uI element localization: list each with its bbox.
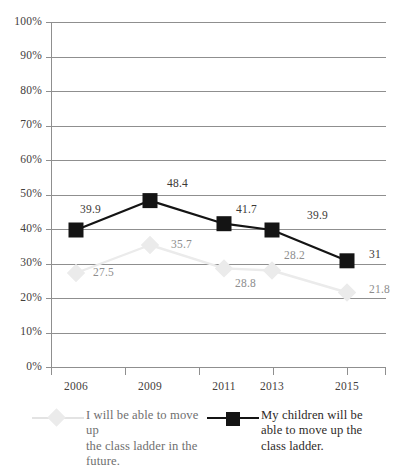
- value-label-faded-2006: 27.5: [93, 266, 114, 278]
- xtick-label-2015: 2015: [327, 380, 367, 392]
- ytick-label-40: 40%: [0, 222, 42, 234]
- ytick-label-20: 20%: [0, 291, 42, 303]
- ytick-label-70: 70%: [0, 118, 42, 130]
- value-label-faded-2013: 28.2: [284, 249, 305, 261]
- series-primary: [69, 193, 355, 268]
- square-marker-icon: [205, 410, 261, 426]
- value-label-primary-2006: 39.9: [80, 203, 101, 215]
- value-label-primary-2011: 41.7: [236, 203, 257, 215]
- legend-entry-faded[interactable]: I will be able to move up the class ladd…: [30, 408, 205, 465]
- line-chart: 100% 90% 80% 70% 60% 50% 40% 30% 20% 10%…: [0, 0, 405, 465]
- legend-faded-line-2: the class ladder in the: [86, 439, 197, 453]
- y-axis-ticks: [46, 23, 51, 368]
- xtick-label-2013: 2013: [252, 380, 292, 392]
- ytick-label-50: 50%: [0, 187, 42, 199]
- series-primary-markers: [69, 193, 355, 268]
- legend-faded-line-3: future.: [86, 454, 120, 465]
- legend-faded-line-1: I will be able to move up: [86, 408, 198, 437]
- value-label-faded-2011: 28.8: [235, 277, 256, 289]
- xtick-label-2009: 2009: [130, 380, 170, 392]
- ytick-label-30: 30%: [0, 256, 42, 268]
- ytick-label-10: 10%: [0, 325, 42, 337]
- legend-label-primary: My children will be able to move up the …: [261, 408, 363, 454]
- value-label-faded-2015: 21.8: [369, 283, 390, 295]
- xtick-label-2006: 2006: [56, 380, 96, 392]
- ytick-label-60: 60%: [0, 153, 42, 165]
- gridlines: [51, 23, 386, 368]
- ytick-label-80: 80%: [0, 84, 42, 96]
- legend-entry-primary[interactable]: My children will be able to move up the …: [205, 408, 390, 454]
- legend-primary-line-3: class ladder.: [261, 439, 324, 453]
- value-label-primary-2009: 48.4: [167, 177, 188, 189]
- ytick-label-90: 90%: [0, 49, 42, 61]
- legend-primary-line-2: able to move up the: [261, 423, 362, 437]
- legend-label-faded: I will be able to move up the class ladd…: [86, 408, 205, 465]
- plot-area: [0, 0, 405, 405]
- value-label-primary-2015: 31: [369, 248, 381, 260]
- x-axis-ticks: [52, 368, 386, 375]
- diamond-marker-icon: [30, 410, 86, 426]
- legend-primary-line-1: My children will be: [261, 408, 363, 422]
- ytick-label-0: 0%: [0, 360, 42, 372]
- chart-legend: I will be able to move up the class ladd…: [0, 403, 405, 465]
- value-label-primary-2013: 39.9: [307, 209, 328, 221]
- xtick-label-2011: 2011: [204, 380, 244, 392]
- ytick-label-100: 100%: [0, 15, 42, 27]
- value-label-faded-2009: 35.7: [171, 238, 192, 250]
